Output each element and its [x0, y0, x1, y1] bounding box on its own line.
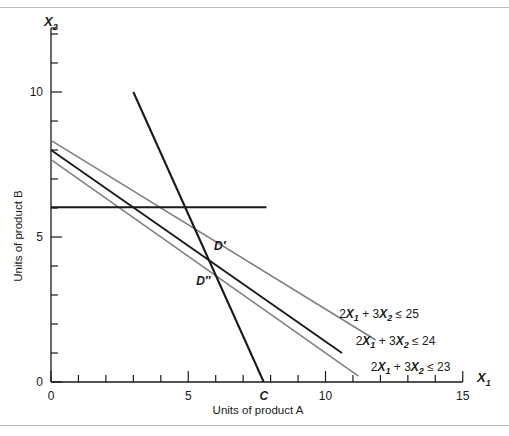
- x-tick-label-5: 5: [185, 389, 192, 403]
- point-annotations-group: D′D″C: [196, 239, 268, 403]
- point-c: C: [259, 389, 268, 403]
- constraint-labels-group: 2X1 + 3X2 ≤ 252X1 + 3X2 ≤ 242X1 + 3X2 ≤ …: [339, 307, 451, 376]
- x-tick-label-0: 0: [48, 389, 55, 403]
- constraint-line-2: [51, 160, 358, 377]
- x-tick-label-10: 10: [319, 389, 333, 403]
- constraint-label-23: 2X1 + 3X2 ≤ 23: [371, 360, 451, 376]
- y-axis-ticks: [51, 28, 62, 382]
- x-tick-label-15: 15: [456, 389, 470, 403]
- constraint-label-24: 2X1 + 3X2 ≤ 24: [356, 334, 436, 350]
- constraint-lines-group: [51, 92, 376, 382]
- constraint-label-25: 2X1 + 3X2 ≤ 25: [339, 307, 419, 323]
- y-tick-label-0: 0: [36, 375, 43, 389]
- point-d-prime: D′: [214, 239, 227, 253]
- y-axis-title: Units of product B: [12, 190, 24, 282]
- y-tick-label-5: 5: [36, 230, 43, 244]
- constraint-line-3: [133, 92, 263, 382]
- constraint-line-1: [51, 150, 342, 353]
- x-axis-title: Units of product A: [213, 404, 304, 416]
- figure-container: 0510 051015 2X1 + 3X2 ≤ 252X1 + 3X2 ≤ 24…: [0, 0, 509, 436]
- y-axis-name-label: X2: [43, 14, 58, 32]
- point-d-double-prime: D″: [196, 274, 212, 288]
- y-tick-label-10: 10: [30, 85, 44, 99]
- linear-programming-chart: 0510 051015 2X1 + 3X2 ≤ 252X1 + 3X2 ≤ 24…: [0, 0, 509, 436]
- y-axis-tick-labels: 0510: [30, 85, 44, 389]
- axes-group: [51, 28, 463, 382]
- x-axis-name-label: X1: [476, 370, 491, 388]
